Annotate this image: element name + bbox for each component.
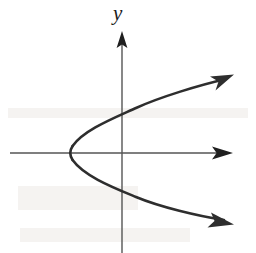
parabola-upper-branch: [73, 79, 226, 146]
y-axis-group: [117, 31, 128, 253]
parabola-lower-branch: [73, 160, 224, 220]
y-axis-label: y: [111, 1, 123, 25]
parabola-curve-group: [70, 75, 234, 228]
graph-svg: y: [0, 0, 256, 253]
figure-canvas: y: [0, 0, 256, 253]
parabola-lower-arrowhead-icon: [208, 213, 235, 228]
